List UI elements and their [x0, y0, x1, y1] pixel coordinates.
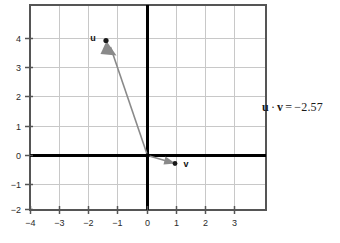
y-tick-label: 1	[16, 122, 21, 132]
vector-v-label: v	[183, 159, 188, 169]
x-tick-label: 1	[174, 218, 179, 228]
annotation-value: −2.57	[294, 100, 323, 114]
x-tick-label: 3	[232, 218, 237, 228]
y-tick-labels: 4 3 2 1 0 −1 −2	[11, 34, 21, 215]
x-tick-label: −2	[83, 218, 93, 228]
dot-product-annotation: u·v=−2.57	[262, 100, 323, 115]
y-tick-label: −1	[11, 180, 21, 190]
y-tick-label: 3	[16, 63, 21, 73]
vector-plot: 4 3 2 1 0 −1 −2 −4 −3 −2 −1 0 1 2 3 u	[0, 0, 340, 243]
y-tick-label: −2	[11, 205, 21, 215]
vector-u-endpoint-dot	[103, 38, 108, 43]
y-tick-label: 4	[16, 34, 21, 44]
x-tick-label: −4	[25, 218, 35, 228]
annotation-dot-operator: ·	[269, 100, 277, 114]
x-tick-label: −3	[54, 218, 64, 228]
x-tick-label: −1	[112, 218, 122, 228]
figure-screenshot: 4 3 2 1 0 −1 −2 −4 −3 −2 −1 0 1 2 3 u	[0, 0, 340, 243]
annotation-u-symbol: u	[262, 100, 269, 114]
x-tick-labels: −4 −3 −2 −1 0 1 2 3	[25, 218, 237, 228]
x-tick-label: 0	[145, 218, 150, 228]
vector-u-label: u	[90, 33, 96, 43]
y-tick-label: 2	[16, 92, 21, 102]
y-tick-label: 0	[16, 151, 21, 161]
annotation-equals: =	[283, 100, 294, 114]
vector-v-endpoint-dot	[173, 161, 178, 166]
origin-dot	[145, 153, 149, 157]
x-tick-label: 2	[203, 218, 208, 228]
